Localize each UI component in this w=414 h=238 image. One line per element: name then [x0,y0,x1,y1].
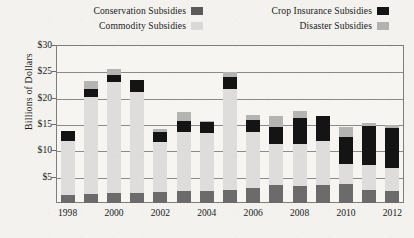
bar-segment-conservation-1998 [61,195,75,203]
bar-segment-commodity-1999 [84,97,98,194]
bar-segment-cropins-2011 [362,126,376,164]
bar-segment-conservation-2010 [339,184,353,203]
bar-2008[interactable] [293,111,307,203]
bar-segment-commodity-2004 [200,133,214,190]
bar-2000[interactable] [107,69,121,203]
bar-segment-conservation-2009 [316,185,330,203]
bar-segment-commodity-2000 [107,82,121,193]
bar-segment-conservation-2000 [107,193,121,203]
bar-2003[interactable] [177,112,191,203]
legend-row-top: Conservation Subsidies Crop Insurance Su… [0,3,414,18]
bar-segment-cropins-1998 [61,131,75,141]
bar-segment-cropins-2004 [200,122,214,134]
bar-segment-conservation-2002 [153,192,167,203]
bar-segment-commodity-2010 [339,164,353,185]
legend-item-crop-insurance-subsidies[interactable]: Crop Insurance Subsidies [203,3,389,18]
bar-segment-conservation-1999 [84,194,98,203]
chart-legend: Conservation Subsidies Crop Insurance Su… [0,2,414,34]
bar-segment-cropins-2007 [269,127,283,144]
y-tick-label-10: $10 [6,145,52,155]
x-tick-label-2000: 2000 [94,207,134,218]
legend-item-disaster-subsidies[interactable]: Disaster Subsidies [203,18,389,33]
bar-2002[interactable] [153,129,167,203]
bar-1998[interactable] [61,131,75,203]
bar-segment-conservation-2012 [385,191,399,203]
bar-segment-commodity-2012 [385,168,399,191]
bar-2004[interactable] [200,121,214,203]
bar-segment-cropins-2010 [339,137,353,163]
bar-segment-conservation-2001 [130,193,144,203]
legend-label-crop-insurance-subsidies: Crop Insurance Subsidies [272,5,372,17]
bar-2010[interactable] [339,127,353,203]
bar-segment-cropins-1999 [84,89,98,96]
bar-1999[interactable] [84,81,98,203]
bar-segment-cropins-2000 [107,75,121,83]
commodity-swatch-icon [191,22,203,30]
disaster-swatch-icon [377,22,389,30]
bar-segment-conservation-2004 [200,191,214,203]
x-tick-label-2010: 2010 [326,207,366,218]
x-tick-label-2008: 2008 [280,207,320,218]
bar-segment-disaster-2010 [339,127,353,137]
bar-segment-disaster-2003 [177,112,191,120]
bar-segment-cropins-2009 [316,116,330,141]
bar-2006[interactable] [246,115,260,203]
bar-segment-cropins-2005 [223,77,237,89]
x-tick-label-2002: 2002 [140,207,180,218]
bars-container [56,45,404,203]
bar-segment-conservation-2007 [269,185,283,203]
bar-segment-commodity-2008 [293,144,307,186]
x-tick-label-2004: 2004 [187,207,227,218]
bar-2001[interactable] [130,80,144,203]
bar-segment-cropins-2001 [130,80,144,92]
y-tick-label-15: $15 [6,119,52,129]
bar-segment-cropins-2003 [177,121,191,133]
bar-segment-commodity-2003 [177,132,191,191]
bar-2007[interactable] [269,116,283,203]
bar-segment-disaster-1999 [84,81,98,89]
y-tick-label-20: $20 [6,93,52,103]
bar-segment-conservation-2003 [177,191,191,203]
bar-segment-conservation-2005 [223,190,237,203]
bar-segment-commodity-2009 [316,141,330,185]
bar-segment-commodity-2005 [223,89,237,190]
bar-segment-commodity-2006 [246,132,260,188]
legend-item-conservation-subsidies[interactable]: Conservation Subsidies [25,3,203,18]
bar-segment-disaster-2007 [269,116,283,128]
bar-2012[interactable] [385,125,399,203]
bar-segment-commodity-2001 [130,92,144,193]
legend-item-commodity-subsidies[interactable]: Commodity Subsidies [25,18,203,33]
bar-segment-conservation-2011 [362,190,376,203]
bar-segment-cropins-2008 [293,118,307,144]
bar-segment-disaster-2008 [293,111,307,118]
bar-segment-cropins-2012 [385,128,399,168]
bar-segment-commodity-1998 [61,141,75,194]
legend-row-bottom: Commodity Subsidies Disaster Subsidies [0,18,414,33]
bar-segment-cropins-2006 [246,120,260,132]
legend-label-conservation-subsidies: Conservation Subsidies [93,5,186,17]
x-tick-label-2012: 2012 [372,207,412,218]
bar-segment-commodity-2002 [153,142,167,192]
legend-label-commodity-subsidies: Commodity Subsidies [99,20,186,32]
bar-segment-commodity-2011 [362,165,376,191]
y-tick-label-25: $25 [6,66,52,76]
conservation-swatch-icon [191,7,203,15]
bar-segment-commodity-2007 [269,144,283,185]
y-axis-title: Billions of Dollars [23,17,34,167]
crop-insurance-swatch-icon [377,7,389,15]
bar-2009[interactable] [316,116,330,203]
bar-segment-conservation-2006 [246,188,260,203]
legend-label-disaster-subsidies: Disaster Subsidies [300,20,372,32]
bar-2011[interactable] [362,123,376,203]
x-tick-label-2006: 2006 [233,207,273,218]
stacked-bar-chart: Conservation Subsidies Crop Insurance Su… [0,0,414,238]
x-tick-label-1998: 1998 [48,207,88,218]
bar-segment-conservation-2008 [293,186,307,203]
bar-segment-cropins-2002 [153,132,167,142]
y-tick-label-30: $30 [6,40,52,50]
y-tick-label-5: $5 [6,172,52,182]
bar-2005[interactable] [223,72,237,203]
